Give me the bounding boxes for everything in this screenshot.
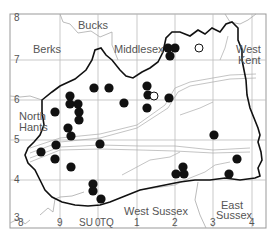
record-dot-filled [88, 186, 97, 195]
x-tick-label: 4 [249, 218, 255, 228]
record-dot-filled [36, 147, 45, 156]
record-dot-filled [142, 81, 151, 90]
record-dot-filled [74, 107, 83, 116]
x-tick-label: SU [79, 218, 93, 228]
y-tick-label: 6 [14, 95, 20, 105]
record-dot-filled [66, 162, 75, 171]
y-tick-label: 8 [14, 13, 20, 23]
y-tick-label: 4 [14, 175, 20, 185]
record-dot-filled [224, 169, 233, 178]
record-dot-filled [89, 83, 98, 92]
record-dot-filled [73, 99, 82, 108]
record-dot-filled [209, 130, 218, 139]
record-dot-filled [65, 91, 74, 100]
record-dot-filled [164, 93, 173, 102]
record-dot-filled [96, 194, 105, 203]
record-dot-filled [65, 99, 74, 108]
record-dot-filled [119, 98, 128, 107]
county-label: Hants [19, 122, 48, 133]
record-dot-filled [63, 123, 72, 132]
county-label: Sussex [216, 210, 252, 221]
y-tick-label: 7 [14, 55, 20, 65]
record-dot-open [150, 92, 158, 100]
record-dot-filled [179, 169, 188, 178]
county-label: Kent [238, 55, 261, 66]
record-dot-filled [50, 154, 59, 163]
record-dot-filled [74, 115, 83, 124]
record-dot-filled [142, 103, 151, 112]
record-dot-filled [165, 51, 174, 60]
x-tick-label: 2 [172, 218, 178, 228]
record-dot-filled [104, 83, 113, 92]
record-dot-filled [51, 140, 60, 149]
record-dot-filled [50, 107, 59, 116]
x-tick-label: 8 [18, 218, 24, 228]
x-tick-label: TQ [100, 218, 114, 228]
county-label: West Sussex [124, 206, 188, 217]
record-dot-filled [171, 169, 180, 178]
record-dot-open [195, 44, 203, 52]
x-tick-label: 3 [210, 218, 216, 228]
county-label: Bucks [78, 20, 108, 31]
x-tick-label: 9 [57, 218, 63, 228]
record-dot-filled [170, 43, 179, 52]
county-label: Middlesex [114, 44, 164, 55]
y-tick-label: 5 [14, 135, 20, 145]
x-tick-label: 1 [134, 218, 140, 228]
record-dot-filled [232, 154, 241, 163]
county-label: Berks [33, 44, 61, 55]
record-dot-filled [95, 139, 104, 148]
record-dot-filled [66, 131, 75, 140]
road-lines [30, 36, 256, 190]
